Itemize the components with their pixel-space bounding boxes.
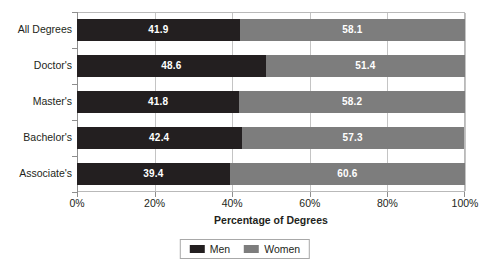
bar-segment-men: 41.8 [77, 91, 239, 113]
bar-row: 41.958.1 [77, 12, 465, 48]
legend-item-women[interactable]: Women [244, 243, 300, 255]
bar-value-label: 51.4 [355, 61, 375, 71]
bar-row: 42.457.3 [77, 120, 465, 156]
legend-label: Women [264, 243, 300, 255]
bar-value-label: 60.6 [337, 169, 357, 179]
chart-legend: MenWomen [180, 239, 310, 259]
x-axis-tick-labels: 0%20%40%60%80%100% [77, 197, 465, 211]
x-axis-tick-label: 20% [144, 197, 165, 209]
y-axis-label-all-degrees: All Degrees [0, 23, 72, 35]
x-axis-tick-label: 60% [299, 197, 320, 209]
bar-segment-women: 60.6 [230, 163, 465, 185]
bar-segment-men: 42.4 [77, 127, 242, 149]
x-axis-tick-label: 40% [222, 197, 243, 209]
bar-value-label: 48.6 [161, 61, 181, 71]
y-axis-label-doctor-s: Doctor's [0, 59, 72, 71]
bar-value-label: 57.3 [343, 133, 363, 143]
y-axis-label-associate-s: Associate's [0, 167, 72, 179]
x-axis-title: Percentage of Degrees [77, 214, 465, 226]
y-axis-labels: All DegreesDoctor'sMaster'sBachelor'sAss… [0, 12, 72, 192]
legend-swatch-icon [244, 245, 259, 253]
bar-segment-men: 39.4 [77, 163, 230, 185]
bar-row: 48.651.4 [77, 48, 465, 84]
gridline [465, 13, 466, 191]
bar-rows: 41.958.148.651.441.858.242.457.339.460.6 [77, 12, 465, 192]
bar-row: 39.460.6 [77, 156, 465, 192]
plot-area-wrapper: 41.958.148.651.441.858.242.457.339.460.6 [77, 12, 465, 192]
bar-value-label: 58.2 [342, 97, 362, 107]
bar-row: 41.858.2 [77, 84, 465, 120]
bar-value-label: 42.4 [149, 133, 169, 143]
y-axis-label-master-s: Master's [0, 95, 72, 107]
bar-value-label: 41.8 [148, 97, 168, 107]
bar-segment-men: 48.6 [77, 55, 266, 77]
stacked-bar-chart: All DegreesDoctor'sMaster'sBachelor'sAss… [0, 0, 490, 273]
x-axis-tick-label: 100% [452, 197, 479, 209]
bar-segment-women: 51.4 [266, 55, 465, 77]
legend-swatch-icon [190, 245, 205, 253]
bar-segment-men: 41.9 [77, 19, 240, 41]
bar-value-label: 41.9 [148, 25, 168, 35]
legend-label: Men [210, 243, 230, 255]
x-axis-tick-label: 80% [377, 197, 398, 209]
legend-item-men[interactable]: Men [190, 243, 230, 255]
bar-segment-women: 58.1 [240, 19, 465, 41]
bar-segment-women: 57.3 [242, 127, 464, 149]
bar-segment-women: 58.2 [239, 91, 465, 113]
x-axis-tick-label: 0% [69, 197, 84, 209]
bar-value-label: 39.4 [143, 169, 163, 179]
bar-value-label: 58.1 [342, 25, 362, 35]
y-axis-label-bachelor-s: Bachelor's [0, 131, 72, 143]
